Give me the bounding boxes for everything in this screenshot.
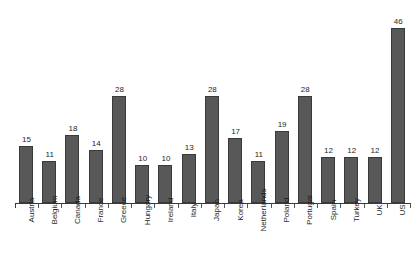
bar-rect xyxy=(391,28,405,203)
category-label-poland: Poland xyxy=(271,208,294,278)
bar-greece[interactable]: 28 xyxy=(108,0,131,204)
bar-value-label: 19 xyxy=(271,120,294,129)
category-label-text: Turkey xyxy=(352,198,361,222)
category-label-text: UK xyxy=(375,204,384,215)
category-label-turkey: Turkey xyxy=(340,208,363,278)
bar-value-label: 11 xyxy=(247,150,270,159)
category-label-france: France xyxy=(85,208,108,278)
bar-ireland[interactable]: 10 xyxy=(154,0,177,204)
category-label-spain: Spain xyxy=(317,208,340,278)
bar-belgium[interactable]: 11 xyxy=(38,0,61,204)
bar-portugal[interactable]: 28 xyxy=(294,0,317,204)
category-label-portugal: Portugal xyxy=(294,208,317,278)
bar-spain[interactable]: 12 xyxy=(317,0,340,204)
category-label-text: Japan xyxy=(212,199,221,221)
bar-value-label: 12 xyxy=(364,146,387,155)
category-label-belgium: Belgium xyxy=(38,208,61,278)
category-label-text: Hungary xyxy=(143,195,152,225)
bar-value-label: 15 xyxy=(15,135,38,144)
bar-value-label: 12 xyxy=(340,146,363,155)
category-label-text: Canada xyxy=(73,196,82,224)
bar-poland[interactable]: 19 xyxy=(271,0,294,204)
bar-value-label: 14 xyxy=(85,139,108,148)
bar-rect xyxy=(321,157,335,203)
bar-value-label: 28 xyxy=(108,85,131,94)
bar-us[interactable]: 46 xyxy=(387,0,410,204)
bar-rect xyxy=(205,96,219,203)
bar-uk[interactable]: 12 xyxy=(364,0,387,204)
bar-italy[interactable]: 13 xyxy=(178,0,201,204)
bar-austria[interactable]: 15 xyxy=(15,0,38,204)
category-label-greece: Greece xyxy=(108,208,131,278)
category-label-austria: Austria xyxy=(15,208,38,278)
bar-rect xyxy=(368,157,382,203)
bar-canada[interactable]: 18 xyxy=(61,0,84,204)
bar-turkey[interactable]: 12 xyxy=(340,0,363,204)
bar-rect xyxy=(344,157,358,203)
category-label-text: Italy xyxy=(189,203,198,218)
bar-rect xyxy=(112,96,126,203)
bar-value-label: 10 xyxy=(131,154,154,163)
bar-rect xyxy=(65,135,79,203)
bar-rect xyxy=(89,150,103,203)
category-label-text: Austria xyxy=(27,198,36,223)
bar-rect xyxy=(228,138,242,203)
category-label-japan: Japan xyxy=(201,208,224,278)
bar-value-label: 11 xyxy=(38,150,61,159)
category-label-text: Portugal xyxy=(305,195,314,225)
category-label-netherlands: Netherlands xyxy=(247,208,270,278)
category-label-text: Ireland xyxy=(166,198,175,222)
bar-value-label: 18 xyxy=(61,124,84,133)
bar-value-label: 10 xyxy=(154,154,177,163)
category-label-text: Netherlands xyxy=(259,188,268,231)
bar-value-label: 28 xyxy=(201,85,224,94)
category-label-ireland: Ireland xyxy=(154,208,177,278)
bar-rect xyxy=(19,146,33,203)
x-axis-category-labels: AustriaBelgiumCanadaFranceGreeceHungaryI… xyxy=(0,208,419,278)
category-label-text: Poland xyxy=(282,198,291,223)
bar-france[interactable]: 14 xyxy=(85,0,108,204)
bar-value-label: 46 xyxy=(387,17,410,26)
category-label-canada: Canada xyxy=(61,208,84,278)
bar-rect xyxy=(182,154,196,203)
category-label-uk: UK xyxy=(364,208,387,278)
category-label-text: Spain xyxy=(329,200,338,220)
category-label-korea: Korea xyxy=(224,208,247,278)
category-label-text: Korea xyxy=(236,199,245,220)
category-label-us: US xyxy=(387,208,410,278)
category-label-text: France xyxy=(96,198,105,223)
bar-value-label: 28 xyxy=(294,85,317,94)
bar-korea[interactable]: 17 xyxy=(224,0,247,204)
bar-value-label: 12 xyxy=(317,146,340,155)
bar-rect xyxy=(275,131,289,203)
bar-netherlands[interactable]: 11 xyxy=(247,0,270,204)
bar-japan[interactable]: 28 xyxy=(201,0,224,204)
category-label-text: Belgium xyxy=(50,196,59,225)
bar-hungary[interactable]: 10 xyxy=(131,0,154,204)
bar-rect xyxy=(298,96,312,203)
bar-value-label: 17 xyxy=(224,127,247,136)
category-label-italy: Italy xyxy=(178,208,201,278)
category-label-text: Greece xyxy=(119,197,128,223)
category-label-hungary: Hungary xyxy=(131,208,154,278)
bar-chart: _ 1511181428101013281711192812121246 Aus… xyxy=(0,0,419,278)
category-label-text: US xyxy=(398,204,407,215)
plot-area: 1511181428101013281711192812121246 xyxy=(0,0,419,204)
bar-value-label: 13 xyxy=(178,143,201,152)
